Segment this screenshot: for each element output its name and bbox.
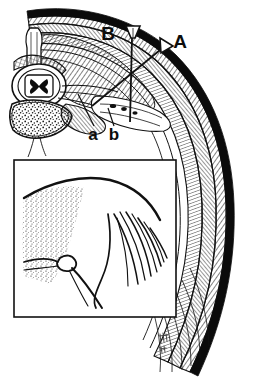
label-structure-b: b [109,125,119,144]
label-needle-b: B [101,23,115,44]
figure-root: B A a b [0,0,258,382]
detail-inset [14,160,176,317]
label-structure-a: a [88,125,98,144]
label-needle-a: A [173,31,187,52]
anatomical-diagram: B A a b [0,0,258,382]
